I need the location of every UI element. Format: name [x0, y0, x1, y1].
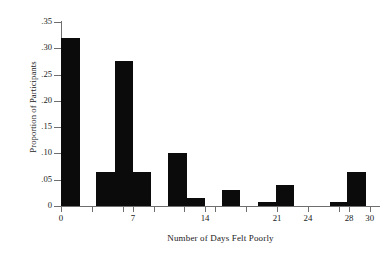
x-tick-label: 7	[118, 213, 148, 224]
histogram-bar	[187, 198, 206, 206]
y-tick-mark	[54, 153, 61, 154]
histogram-bar	[258, 202, 277, 206]
y-tick-label-wrap: .05	[0, 175, 52, 185]
x-tick-mark	[133, 207, 134, 212]
histogram-bar	[347, 172, 366, 206]
histogram-bar	[222, 190, 241, 206]
x-tick-mark	[61, 207, 62, 212]
x-tick-mark	[370, 207, 371, 212]
bars-group	[61, 22, 380, 206]
y-tick-label: .25	[8, 70, 52, 79]
x-tick-label: 21	[262, 213, 292, 224]
y-tick-label: .15	[8, 122, 52, 131]
y-tick-label-wrap: .35	[0, 17, 52, 27]
x-tick-mark	[246, 207, 247, 212]
y-tick-label-wrap: 0	[0, 201, 52, 211]
x-axis-line	[61, 206, 380, 207]
x-tick-mark	[215, 207, 216, 212]
x-tick-mark	[339, 207, 340, 212]
histogram-bar	[330, 202, 347, 206]
y-tick-mark	[54, 206, 61, 207]
x-tick-label: 30	[355, 213, 385, 224]
histogram-bar	[276, 185, 293, 206]
x-tick-mark	[308, 207, 309, 212]
y-tick-label-wrap: .20	[0, 96, 52, 106]
x-tick-label: 0	[46, 213, 76, 224]
histogram-bar	[168, 153, 187, 206]
y-tick-label-wrap: .25	[0, 70, 52, 80]
y-tick-label: .30	[8, 43, 52, 52]
x-tick-mark	[123, 207, 124, 212]
y-tick-label: .05	[8, 175, 52, 184]
histogram-bar	[115, 61, 134, 206]
x-tick-mark	[154, 207, 155, 212]
x-tick-mark	[184, 207, 185, 212]
x-tick-mark	[205, 207, 206, 212]
y-tick-label-wrap: .10	[0, 148, 52, 158]
x-axis-label: Number of Days Felt Poorly	[61, 233, 380, 243]
histogram-bar	[61, 38, 80, 206]
y-tick-label: 0	[8, 201, 52, 210]
y-tick-label: .10	[8, 148, 52, 157]
y-tick-mark	[54, 75, 61, 76]
y-tick-label-wrap: .15	[0, 122, 52, 132]
x-tick-label: 24	[293, 213, 323, 224]
x-tick-mark	[349, 207, 350, 212]
y-tick-mark	[54, 127, 61, 128]
y-tick-mark	[54, 101, 61, 102]
y-tick-mark	[54, 48, 61, 49]
y-tick-mark	[54, 22, 61, 23]
y-tick-label-wrap: .30	[0, 43, 52, 53]
histogram-figure: Proportion of Participants 0.05.10.15.20…	[0, 0, 386, 263]
histogram-bar	[133, 172, 150, 206]
y-tick-mark	[54, 180, 61, 181]
y-tick-label: .20	[8, 96, 52, 105]
x-tick-label: 14	[190, 213, 220, 224]
x-tick-mark	[92, 207, 93, 212]
histogram-bar	[96, 172, 115, 206]
x-tick-mark	[277, 207, 278, 212]
y-tick-label: .35	[8, 17, 52, 26]
